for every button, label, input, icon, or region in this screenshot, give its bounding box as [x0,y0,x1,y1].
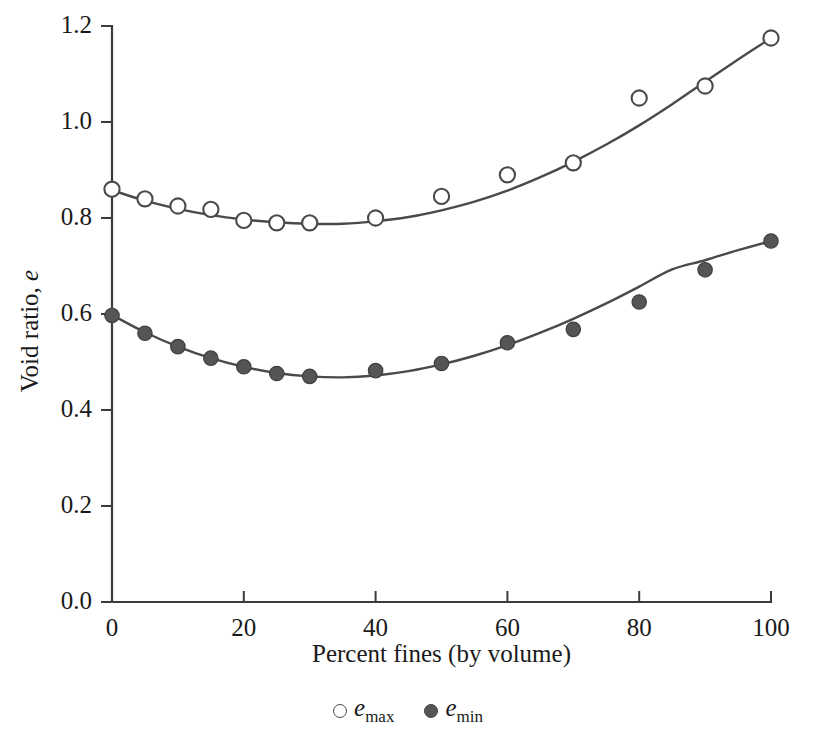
data-point-e-min [566,322,580,336]
void-ratio-chart: 0.00.20.40.60.81.01.2020406080100Percent… [0,0,816,742]
data-point-e-min [105,308,119,322]
legend-item-emax: emax [333,694,394,727]
data-point-e-min [204,351,218,365]
data-point-e-min [171,339,185,353]
data-point-e-max [763,30,778,45]
data-point-e-max [500,167,515,182]
y-axis-title-prefix: Void ratio, [16,281,43,392]
data-point-e-min [632,295,646,309]
x-tick-label: 40 [363,614,388,641]
data-point-e-max [104,182,119,197]
data-point-e-max [698,78,713,93]
y-tick-label: 1.0 [61,107,92,134]
y-tick-label: 1.2 [61,11,92,38]
y-tick-label: 0.6 [61,299,92,326]
y-tick-label: 0.8 [61,203,92,230]
legend-item-emin: emin [424,694,483,727]
data-point-e-max [368,210,383,225]
x-tick-label: 100 [752,614,790,641]
data-point-e-min [368,363,382,377]
plot-axes [112,26,771,602]
data-point-e-max [203,202,218,217]
y-axis-title: Void ratio, e [14,236,46,426]
data-point-e-min [270,366,284,380]
data-point-e-min [303,369,317,383]
data-point-e-max [236,213,251,228]
y-axis-title-symbol: e [16,270,43,281]
x-tick-label: 60 [495,614,520,641]
y-tick-label: 0.0 [61,587,92,614]
data-point-e-max [434,189,449,204]
data-point-e-min [764,234,778,248]
data-point-e-max [566,155,581,170]
figure-container: 0.00.20.40.60.81.01.2020406080100Percent… [0,0,816,742]
data-point-e-min [138,326,152,340]
y-tick-label: 0.4 [61,395,93,422]
chart-legend: emax emin [0,694,816,727]
x-axis-title: Percent fines (by volume) [312,640,571,668]
data-point-e-min [237,360,251,374]
filled-circle-icon [424,704,438,718]
x-tick-label: 80 [627,614,652,641]
data-point-e-max [302,215,317,230]
x-tick-label: 20 [231,614,256,641]
x-tick-label: 0 [106,614,119,641]
legend-label-emin: emin [445,694,483,727]
data-point-e-max [269,215,284,230]
legend-label-emax: emax [354,694,394,727]
data-point-e-max [170,198,185,213]
open-circle-icon [333,704,347,718]
data-point-e-min [500,336,514,350]
data-point-e-min [434,356,448,370]
data-point-e-max [632,90,647,105]
y-tick-label: 0.2 [61,491,92,518]
data-point-e-max [137,191,152,206]
data-point-e-min [698,263,712,277]
